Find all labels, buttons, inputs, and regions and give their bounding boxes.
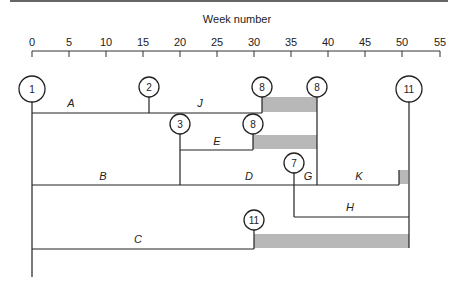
tick-label: 55 — [434, 36, 446, 48]
float-bars — [253, 97, 409, 248]
activity-lines — [32, 97, 409, 277]
node-label: 11 — [249, 215, 260, 226]
nodes: 1 2 8 8 11 3 8 7 — [19, 76, 422, 230]
tick-label: 45 — [359, 36, 371, 48]
node-label: 2 — [146, 82, 152, 93]
float-bar-c — [254, 234, 409, 248]
node-11-b: 11 — [244, 210, 264, 230]
tick-label: 20 — [174, 36, 186, 48]
activity-label-h: H — [346, 201, 354, 213]
activity-label-a: A — [66, 97, 74, 109]
axis-tick-labels: 0 5 10 15 20 25 30 35 40 45 50 55 — [29, 36, 446, 48]
activity-label-j: J — [196, 97, 203, 109]
node-8-b: 8 — [307, 77, 327, 97]
node-label: 8 — [250, 119, 256, 130]
tick-label: 25 — [211, 36, 223, 48]
network-diagram: Week number 0 5 10 15 20 25 30 35 40 45 … — [0, 0, 458, 291]
float-bar-k — [399, 170, 408, 184]
activity-labels: A J E B D G K H C — [66, 97, 363, 245]
node-2: 2 — [139, 77, 159, 97]
activity-label-k: K — [355, 170, 363, 182]
node-label: 7 — [291, 158, 297, 169]
activity-label-b: B — [99, 170, 106, 182]
tick-label: 5 — [66, 36, 72, 48]
node-8-a: 8 — [252, 77, 272, 97]
tick-label: 30 — [248, 36, 260, 48]
float-bar-e — [253, 135, 317, 149]
node-label: 1 — [29, 84, 35, 95]
node-3: 3 — [170, 114, 190, 134]
tick-label: 40 — [322, 36, 334, 48]
node-label: 8 — [314, 82, 320, 93]
axis-title: Week number — [203, 13, 272, 25]
float-bar-j — [262, 97, 317, 112]
tick-label: 50 — [396, 36, 408, 48]
axis-line — [32, 51, 440, 57]
node-8-c: 8 — [243, 114, 263, 134]
node-label: 3 — [177, 119, 183, 130]
tick-label: 35 — [285, 36, 297, 48]
activity-label-c: C — [134, 233, 142, 245]
activity-label-g: G — [304, 170, 313, 182]
node-7: 7 — [284, 153, 304, 173]
tick-label: 10 — [100, 36, 112, 48]
tick-label: 15 — [137, 36, 149, 48]
activity-label-e: E — [213, 135, 221, 147]
node-1: 1 — [19, 76, 45, 102]
node-11-a: 11 — [396, 76, 422, 102]
node-label: 11 — [404, 84, 415, 95]
node-label: 8 — [259, 82, 265, 93]
activity-label-d: D — [245, 170, 253, 182]
tick-label: 0 — [29, 36, 35, 48]
